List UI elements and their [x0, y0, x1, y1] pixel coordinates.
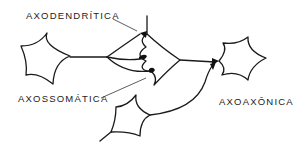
synapse-diagram	[0, 0, 307, 149]
neuron-right-soma	[219, 37, 266, 80]
axon-branch-top	[107, 34, 140, 57]
axon-branch-middle	[107, 57, 140, 60]
label-axoaxonic: AXOAXÔNICA	[219, 97, 294, 107]
label-axosomatic: AXOSSOMÁTICA	[18, 94, 108, 104]
label-axodendritic: AXODENDRÍTICA	[26, 11, 120, 21]
neuron-center-soma	[140, 34, 180, 85]
neuron-bottom-axon	[150, 66, 212, 115]
terminal-axosomatic-2	[149, 68, 155, 73]
neuron-left-soma	[21, 33, 70, 84]
neuron-center-axon	[180, 60, 215, 62]
neuron-bottom-tail	[100, 132, 111, 141]
neuron-bottom-soma	[111, 95, 150, 136]
